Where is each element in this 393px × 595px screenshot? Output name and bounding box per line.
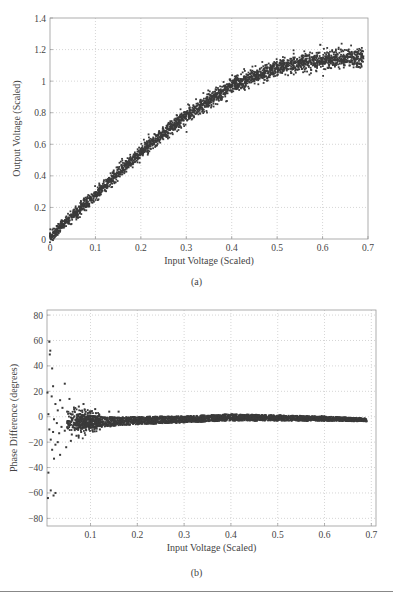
x-tick-label: 0.6 [319, 530, 331, 540]
y-tick-label: 20 [34, 387, 44, 397]
x-tick-label: 0.6 [317, 243, 329, 253]
y-tick-label: 0.2 [34, 203, 46, 213]
caption-b: (b) [0, 567, 393, 578]
x-axis-label: Input Voltage (Scaled) [167, 542, 257, 554]
x-tick-label: 0.4 [226, 243, 238, 253]
grid-lines [50, 18, 368, 239]
y-tick-label: 0.4 [34, 171, 46, 181]
y-tick-label: 60 [34, 336, 44, 346]
x-tick-labels: 0.10.20.30.40.50.60.7 [85, 523, 378, 540]
y-tick-label: 1.4 [34, 14, 46, 24]
scatter-chart-phase-difference: 0.10.20.30.40.50.60.7−80−60−40−200204060… [0, 300, 393, 590]
y-tick-label: 1.2 [34, 45, 46, 55]
x-tick-label: 0.7 [362, 243, 374, 253]
y-tick-label: 0.6 [34, 140, 46, 150]
x-tick-label: 0.2 [135, 243, 147, 253]
y-tick-label: 0 [41, 235, 46, 245]
x-tick-label: 0.3 [178, 530, 190, 540]
y-axis-label: Phase Difference (degrees) [8, 364, 20, 472]
y-tick-label: −60 [28, 488, 43, 498]
y-tick-label: 1 [41, 77, 46, 87]
x-tick-label: 0.3 [180, 243, 192, 253]
y-tick-label: 80 [34, 311, 44, 321]
y-tick-label: 0 [38, 412, 43, 422]
x-tick-label: 0.2 [131, 530, 143, 540]
caption-a: (a) [0, 276, 393, 287]
y-axis-label: Output Voltage (Scaled) [11, 80, 23, 176]
x-tick-label: 0.1 [89, 243, 101, 253]
figure-b: 0.10.20.30.40.50.60.7−80−60−40−200204060… [0, 300, 393, 590]
data-points [49, 43, 364, 243]
y-tick-label: 0.8 [34, 108, 46, 118]
plot-frame [50, 18, 368, 239]
scatter-chart-output-vs-input: 00.10.20.30.40.50.60.700.20.40.60.811.21… [0, 0, 393, 300]
y-tick-label: −80 [28, 514, 43, 524]
x-tick-label: 0.1 [85, 530, 97, 540]
x-tick-label: 0.7 [365, 530, 377, 540]
x-tick-label: 0.5 [272, 530, 284, 540]
y-tick-label: 40 [34, 361, 44, 371]
x-tick-label: 0.4 [225, 530, 237, 540]
figure-a: 00.10.20.30.40.50.60.700.20.40.60.811.21… [0, 0, 393, 300]
x-tick-label: 0.5 [271, 243, 283, 253]
x-axis-label: Input Voltage (Scaled) [164, 255, 254, 267]
y-tick-label: −20 [28, 438, 43, 448]
bottom-divider [0, 591, 393, 592]
x-tick-labels: 00.10.20.30.40.50.60.7 [48, 236, 375, 253]
x-tick-label: 0 [48, 243, 53, 253]
y-tick-label: −40 [28, 463, 43, 473]
data-points [46, 341, 367, 499]
